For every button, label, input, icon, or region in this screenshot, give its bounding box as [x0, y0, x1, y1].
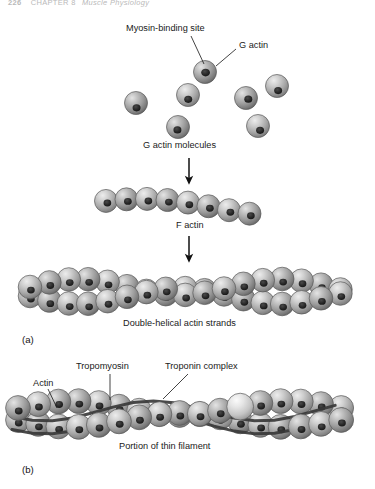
- actin-sphere: [46, 414, 71, 439]
- helical-actin-monomer: [115, 274, 139, 298]
- actin-sphere: [288, 389, 313, 414]
- actin-sphere: [96, 270, 120, 294]
- myosin-binding-site-dot: [257, 424, 265, 431]
- actin-sphere: [268, 414, 293, 439]
- myosin-binding-site-dot: [184, 96, 192, 103]
- myosin-binding-site-dot: [197, 414, 205, 421]
- myosin-binding-site-dot: [197, 413, 205, 420]
- label-myosin-binding-site: Myosin-binding site: [126, 24, 205, 33]
- g-actin-molecule: [167, 116, 190, 139]
- double-helical-actin-strands: [18, 267, 352, 316]
- actin-sphere: [127, 398, 152, 423]
- helical-actin-monomer: [135, 280, 159, 304]
- myosin-binding-site-dot: [257, 403, 265, 410]
- thin-filament-actin-monomer: [127, 405, 152, 430]
- f-actin-monomer: [197, 195, 220, 218]
- thin-filament-actin-monomer: [167, 401, 192, 426]
- actin-sphere: [193, 278, 217, 302]
- actin-sphere: [247, 115, 270, 138]
- troponin-complex-sphere: [227, 393, 254, 420]
- myosin-binding-site-dot: [105, 301, 113, 308]
- myosin-binding-site-dot: [163, 294, 171, 301]
- f-actin-monomer: [95, 189, 118, 212]
- myosin-binding-site-dot: [338, 408, 346, 415]
- actin-sphere: [208, 398, 233, 423]
- myosin-binding-site-dot: [221, 288, 229, 295]
- actin-sphere: [329, 396, 354, 421]
- running-head: 226 CHAPTER 8 Muscle Physiology: [8, 0, 149, 7]
- myosin-binding-site-dot: [124, 198, 132, 205]
- thin-filament-actin-monomer: [46, 389, 71, 414]
- helical-actin-monomer: [270, 267, 294, 291]
- g-actin-molecule: [266, 75, 289, 98]
- actin-sphere: [309, 287, 333, 311]
- helical-actin-monomer: [96, 289, 120, 313]
- actin-sphere: [309, 392, 334, 417]
- actin-sphere: [238, 202, 261, 225]
- helical-actin-monomer: [76, 292, 100, 316]
- myosin-binding-site-dot: [202, 292, 210, 299]
- actin-sphere: [115, 285, 139, 309]
- myosin-binding-site-dot: [176, 415, 184, 422]
- actin-sphere: [86, 413, 111, 438]
- myosin-binding-site-dot: [182, 295, 190, 302]
- helical-actin-monomer: [18, 284, 42, 308]
- helical-actin-monomer: [309, 287, 333, 311]
- panel-label-a: (a): [22, 334, 34, 345]
- myosin-binding-site-dot: [96, 403, 104, 410]
- thin-filament-back-layer: [6, 389, 354, 440]
- myosin-binding-site-dot: [298, 426, 306, 433]
- myosin-binding-site-dot: [35, 404, 43, 411]
- actin-sphere: [194, 61, 217, 84]
- actin-sphere: [95, 189, 118, 212]
- actin-sphere: [154, 277, 178, 301]
- myosin-binding-site-dot: [124, 286, 132, 293]
- actin-sphere: [248, 413, 273, 438]
- helical-actin-monomer: [232, 272, 256, 296]
- actin-sphere: [147, 401, 172, 426]
- helical-actin-monomer: [193, 281, 217, 305]
- thin-filament-actin-monomer: [248, 391, 273, 416]
- label-actin: Actin: [33, 379, 53, 388]
- myosin-binding-site-dot: [15, 408, 23, 415]
- actin-sphere: [187, 402, 212, 427]
- thin-filament-actin-monomer: [208, 405, 233, 430]
- thin-filament-actin-monomer: [288, 389, 313, 414]
- myosin-binding-site-dot: [156, 413, 164, 420]
- actin-sphere: [147, 402, 172, 427]
- figure-artwork: [0, 0, 375, 489]
- myosin-binding-site-dot: [186, 201, 194, 208]
- actin-sphere: [18, 284, 42, 308]
- actin-sphere: [167, 401, 192, 426]
- actin-sphere: [290, 269, 314, 293]
- helical-actin-monomer: [232, 287, 256, 311]
- myosin-binding-site-dot: [277, 426, 285, 433]
- thin-filament-actin-monomer: [147, 402, 172, 427]
- myosin-binding-site-dot: [244, 96, 252, 103]
- helical-actin-monomer: [154, 282, 178, 306]
- myosin-binding-site-dot: [202, 290, 210, 297]
- actin-sphere: [107, 394, 132, 419]
- myosin-binding-site-dot: [227, 209, 235, 216]
- actin-sphere: [288, 414, 313, 439]
- f-actin-monomer: [218, 199, 241, 222]
- thin-filament-actin-monomer: [86, 413, 111, 438]
- thin-filament-front-layer: [6, 389, 354, 440]
- actin-sphere: [173, 276, 197, 300]
- myosin-binding-site-dot: [85, 279, 93, 286]
- myosin-binding-site-dot: [260, 302, 268, 309]
- thin-filament-actin-monomer: [46, 414, 71, 439]
- leader-troponin: [163, 374, 188, 399]
- g-actin-molecule: [235, 87, 258, 110]
- leader-myosin-binding-site: [191, 36, 204, 64]
- myosin-binding-site-dot: [165, 199, 173, 206]
- actin-sphere: [228, 409, 253, 434]
- helical-actin-monomer: [38, 271, 62, 295]
- actin-sphere: [270, 267, 294, 291]
- myosin-binding-site-dot: [221, 294, 229, 301]
- myosin-binding-site-dot: [299, 302, 307, 309]
- label-tropomyosin: Tropomyosin: [76, 362, 129, 371]
- f-actin-monomer: [177, 191, 200, 214]
- myosin-binding-site-dot: [136, 410, 144, 417]
- helical-actin-monomer: [135, 279, 159, 303]
